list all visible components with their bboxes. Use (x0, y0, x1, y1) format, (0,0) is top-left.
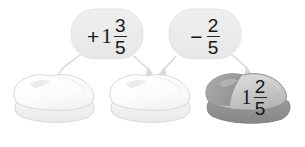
blob-start[interactable] (14, 75, 94, 123)
operation-bubble-2[interactable] (169, 9, 241, 59)
blob-middle[interactable] (110, 75, 190, 123)
diagram-canvas: + 1 3 5 − 2 5 1 2 5 (0, 0, 305, 147)
blob-result[interactable] (206, 74, 290, 124)
operation-bubble-1[interactable] (71, 9, 143, 59)
arrow-from-op1-to-blob1 (58, 55, 80, 76)
diagram-graphics (0, 0, 305, 147)
